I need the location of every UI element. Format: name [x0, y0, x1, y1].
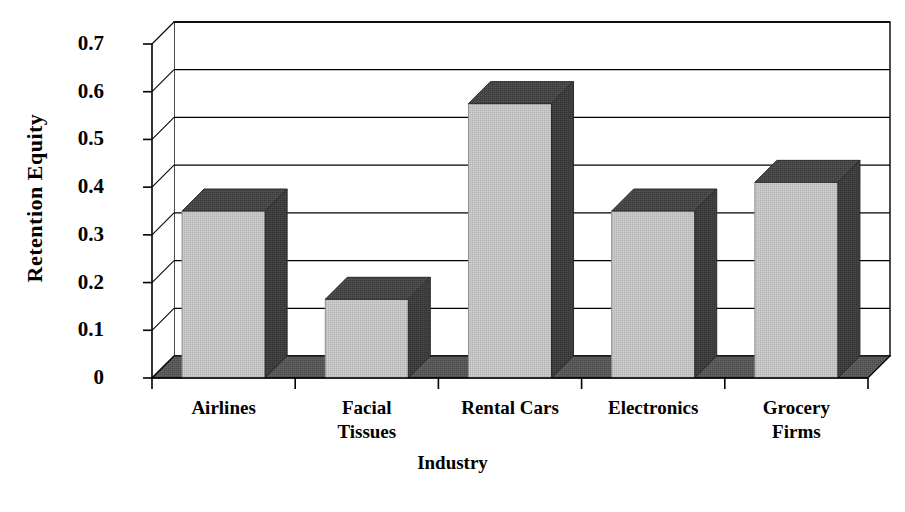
x-tick-label-facial-tissues: Facial Tissues	[295, 396, 438, 445]
bar-facial-tissues	[325, 277, 430, 378]
bar-grocery-firms	[755, 160, 860, 378]
x-tick-label-rental-cars: Rental Cars	[438, 396, 581, 420]
x-tick-label-electronics: Electronics	[582, 396, 725, 420]
bar-airlines	[182, 189, 287, 378]
x-tick-label-airlines: Airlines	[152, 396, 295, 420]
x-tick-label-grocery-firms: Grocery Firms	[725, 396, 868, 445]
bar-chart: Retention Equity 00.10.20.30.40.50.60.7	[0, 0, 905, 512]
bar-electronics	[612, 189, 717, 378]
x-axis-title: Industry	[0, 452, 905, 474]
bar-rental-cars	[468, 82, 573, 378]
